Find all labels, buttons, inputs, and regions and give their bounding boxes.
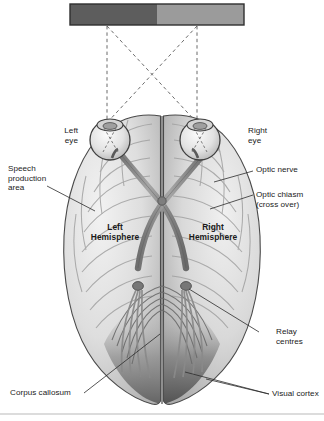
visual-pathway-diagram xyxy=(0,0,324,421)
label-left-hemisphere: Left Hemisphere xyxy=(88,222,142,242)
label-corpus-callosum: Corpus callosum xyxy=(10,388,88,398)
label-optic-chiasm: Optic chiasm (cross over) xyxy=(256,190,322,209)
relay-centre-left xyxy=(133,282,144,291)
right-lens xyxy=(193,123,207,130)
left-lens xyxy=(103,123,117,130)
label-speech-production-area: Speech production area xyxy=(8,164,66,193)
visual-field-bar-left-half xyxy=(70,4,157,25)
visual-field-bar-right-half xyxy=(157,4,244,25)
optic-chiasm-node xyxy=(158,197,166,205)
label-optic-nerve: Optic nerve xyxy=(256,165,322,175)
right-eye-graphic xyxy=(180,119,220,160)
visual-field-bar xyxy=(70,4,244,25)
label-right-hemisphere: Right Hemisphere xyxy=(184,222,242,242)
label-visual-cortex: Visual cortex xyxy=(272,389,324,399)
label-right-eye: Right eye xyxy=(248,126,308,145)
brain xyxy=(64,115,261,404)
label-left-eye: Left eye xyxy=(34,126,78,145)
label-relay-centres: Relay centres xyxy=(276,327,322,346)
left-eye-graphic xyxy=(90,119,130,160)
